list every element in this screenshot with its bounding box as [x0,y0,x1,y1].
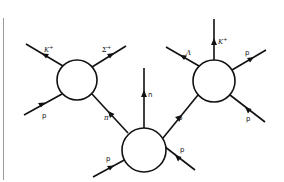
label-right-p-out: p [245,49,250,57]
label-left-kplus: K+ [43,44,53,54]
arrow-icon [141,90,147,97]
label-mid-p-in-right: p [180,146,185,154]
vertex-right [193,60,235,102]
arrow-icon [175,155,182,162]
vertex-left [57,60,97,100]
vertex-middle [122,128,166,172]
arrow-icon [211,38,217,45]
label-right-p-in: p [246,115,251,123]
label-neutron: n [148,91,152,99]
label-mid-to-right-p: p [178,114,183,122]
label-mid-p-in-left: p [106,155,111,163]
label-right-lambda: Λ [185,49,191,57]
label-right-kplus: K+ [217,36,227,46]
interaction-diagram: K+ Σ+ p π+ n p p p Λ K+ p p [0,0,284,182]
label-left-p-in: p [42,112,47,120]
label-left-sigmaplus: Σ+ [101,44,111,54]
label-pion: π+ [103,112,113,122]
arrow-icon [245,107,252,114]
